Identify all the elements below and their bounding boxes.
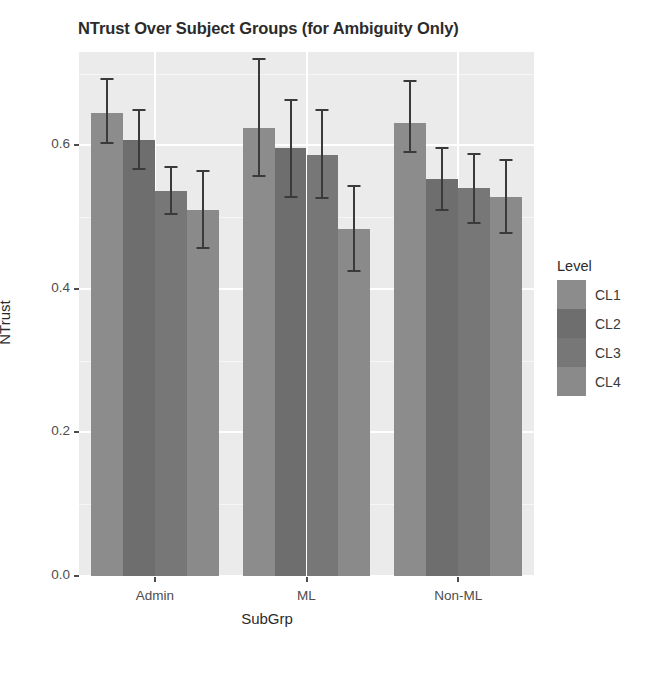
errorbar-cap-top xyxy=(164,166,177,168)
errorbar-cap-top xyxy=(284,99,297,101)
legend-item-cl4: CL4 xyxy=(557,367,621,396)
legend-items: CL1CL2CL3CL4 xyxy=(557,280,621,396)
errorbar-line xyxy=(170,166,172,215)
y-axis-tick-label: 0.2 xyxy=(51,423,70,438)
x-axis-tick-mark xyxy=(306,577,308,582)
legend-label: CL3 xyxy=(595,345,621,361)
y-axis-tick-mark xyxy=(74,144,79,146)
errorbar-ml-cl3 xyxy=(307,109,339,199)
legend-swatch xyxy=(557,309,586,338)
errorbar-non-ml-cl2 xyxy=(426,147,458,212)
errorbar-cap-top xyxy=(348,185,361,187)
legend-item-cl1: CL1 xyxy=(557,280,621,309)
errorbar-cap-top xyxy=(404,80,417,82)
errorbar-cap-top xyxy=(196,170,209,172)
errorbar-cap-bottom xyxy=(404,151,417,153)
legend-item-cl2: CL2 xyxy=(557,309,621,338)
errorbar-line xyxy=(290,99,292,198)
errorbar-non-ml-cl1 xyxy=(394,80,426,153)
y-axis-tick-mark xyxy=(74,431,79,433)
errorbar-cap-bottom xyxy=(499,232,512,234)
errorbar-cap-top xyxy=(499,159,512,161)
errorbar-cap-top xyxy=(252,58,265,60)
bar-admin-cl2 xyxy=(123,140,155,576)
x-axis-tick-label: ML xyxy=(247,588,367,603)
errorbar-ml-cl4 xyxy=(338,185,370,272)
legend-swatch xyxy=(557,280,586,309)
errorbar-line xyxy=(202,170,204,249)
legend-label: CL2 xyxy=(595,316,621,332)
errorbar-cap-bottom xyxy=(348,270,361,272)
errorbar-cap-bottom xyxy=(436,209,449,211)
errorbar-ml-cl1 xyxy=(243,58,275,177)
x-axis-tick-label: Non-ML xyxy=(398,588,518,603)
errorbar-cap-bottom xyxy=(284,196,297,198)
y-axis-tick-mark xyxy=(74,288,79,290)
errorbar-admin-cl3 xyxy=(155,166,187,215)
bar-non-ml-cl2 xyxy=(426,179,458,576)
bar-admin-cl3 xyxy=(155,191,187,576)
errorbar-line xyxy=(321,109,323,199)
errorbar-cap-bottom xyxy=(196,247,209,249)
errorbar-line xyxy=(258,58,260,177)
errorbar-cap-top xyxy=(101,78,114,80)
bar-ml-cl3 xyxy=(307,155,339,576)
errorbar-cap-bottom xyxy=(132,168,145,170)
errorbar-cap-top xyxy=(468,153,481,155)
bar-non-ml-cl1 xyxy=(394,123,426,576)
errorbar-non-ml-cl3 xyxy=(458,153,490,223)
x-axis-title: SubGrp xyxy=(0,610,534,627)
y-axis-tick-label: 0.4 xyxy=(51,280,70,295)
legend: Level CL1CL2CL3CL4 xyxy=(557,258,621,396)
legend-item-cl3: CL3 xyxy=(557,338,621,367)
errorbar-ml-cl2 xyxy=(275,99,307,198)
errorbar-admin-cl4 xyxy=(187,170,219,249)
errorbar-line xyxy=(505,159,507,234)
errorbar-cap-top xyxy=(436,147,449,149)
errorbar-cap-top xyxy=(132,109,145,111)
errorbar-line xyxy=(441,147,443,212)
bar-ml-cl2 xyxy=(275,148,307,576)
bar-non-ml-cl4 xyxy=(490,197,522,576)
x-axis-tick-mark xyxy=(154,577,156,582)
y-axis-tick-mark xyxy=(74,575,79,577)
errorbar-line xyxy=(473,153,475,223)
errorbar-cap-bottom xyxy=(316,197,329,199)
errorbar-cap-top xyxy=(316,109,329,111)
errorbar-line xyxy=(409,80,411,153)
errorbar-cap-bottom xyxy=(252,175,265,177)
errorbar-admin-cl2 xyxy=(123,109,155,171)
chart-container: NTrust Over Subject Groups (for Ambiguit… xyxy=(0,0,647,680)
legend-swatch xyxy=(557,338,586,367)
bar-ml-cl1 xyxy=(243,128,275,576)
x-axis-tick-mark xyxy=(457,577,459,582)
bar-ml-cl4 xyxy=(338,229,370,576)
errorbar-line xyxy=(106,78,108,144)
legend-swatch xyxy=(557,367,586,396)
x-axis-tick-label: Admin xyxy=(95,588,215,603)
y-axis-tick-label: 0.6 xyxy=(51,136,70,151)
chart-title: NTrust Over Subject Groups (for Ambiguit… xyxy=(78,19,459,38)
plot-panel xyxy=(79,52,534,576)
legend-title: Level xyxy=(557,258,621,274)
errorbar-line xyxy=(353,185,355,272)
legend-label: CL1 xyxy=(595,287,621,303)
bar-admin-cl1 xyxy=(91,113,123,576)
bar-admin-cl4 xyxy=(187,210,219,576)
errorbar-cap-bottom xyxy=(101,142,114,144)
errorbar-cap-bottom xyxy=(164,213,177,215)
errorbar-line xyxy=(138,109,140,171)
legend-label: CL4 xyxy=(595,374,621,390)
errorbar-non-ml-cl4 xyxy=(490,159,522,234)
y-axis-title: NTrust xyxy=(0,300,13,344)
errorbar-cap-bottom xyxy=(468,222,481,224)
bar-non-ml-cl3 xyxy=(458,188,490,576)
errorbar-admin-cl1 xyxy=(91,78,123,144)
y-axis-tick-label: 0.0 xyxy=(51,567,70,582)
